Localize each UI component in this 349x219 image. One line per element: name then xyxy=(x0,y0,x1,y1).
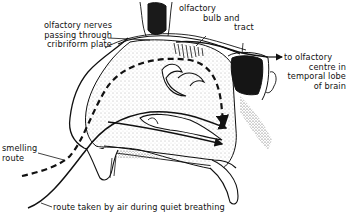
sphenoid-sinus xyxy=(231,56,263,95)
upper-lip xyxy=(86,148,118,180)
label-line: cribriform plate xyxy=(14,40,112,50)
label-line: route xyxy=(2,154,37,164)
frontal-sinus xyxy=(148,3,166,35)
label-olfactory-nerves: olfactory nerves passing through cribrif… xyxy=(14,21,112,50)
label-line: of brain xyxy=(284,82,346,92)
label-olfactory-bulb: olfactory bulb and tract xyxy=(179,4,254,33)
label-line: tract xyxy=(179,23,254,33)
label-quiet-breathing: route taken by air during quiet breathin… xyxy=(53,203,225,213)
nasopharynx xyxy=(240,96,272,150)
leader-quiet-breathing xyxy=(41,203,52,207)
label-to-olfactory-centre: to olfactory centre in temporal lobe of … xyxy=(284,53,346,91)
leader-smelling-route xyxy=(38,153,64,160)
label-smelling-route: smelling route xyxy=(2,144,37,163)
